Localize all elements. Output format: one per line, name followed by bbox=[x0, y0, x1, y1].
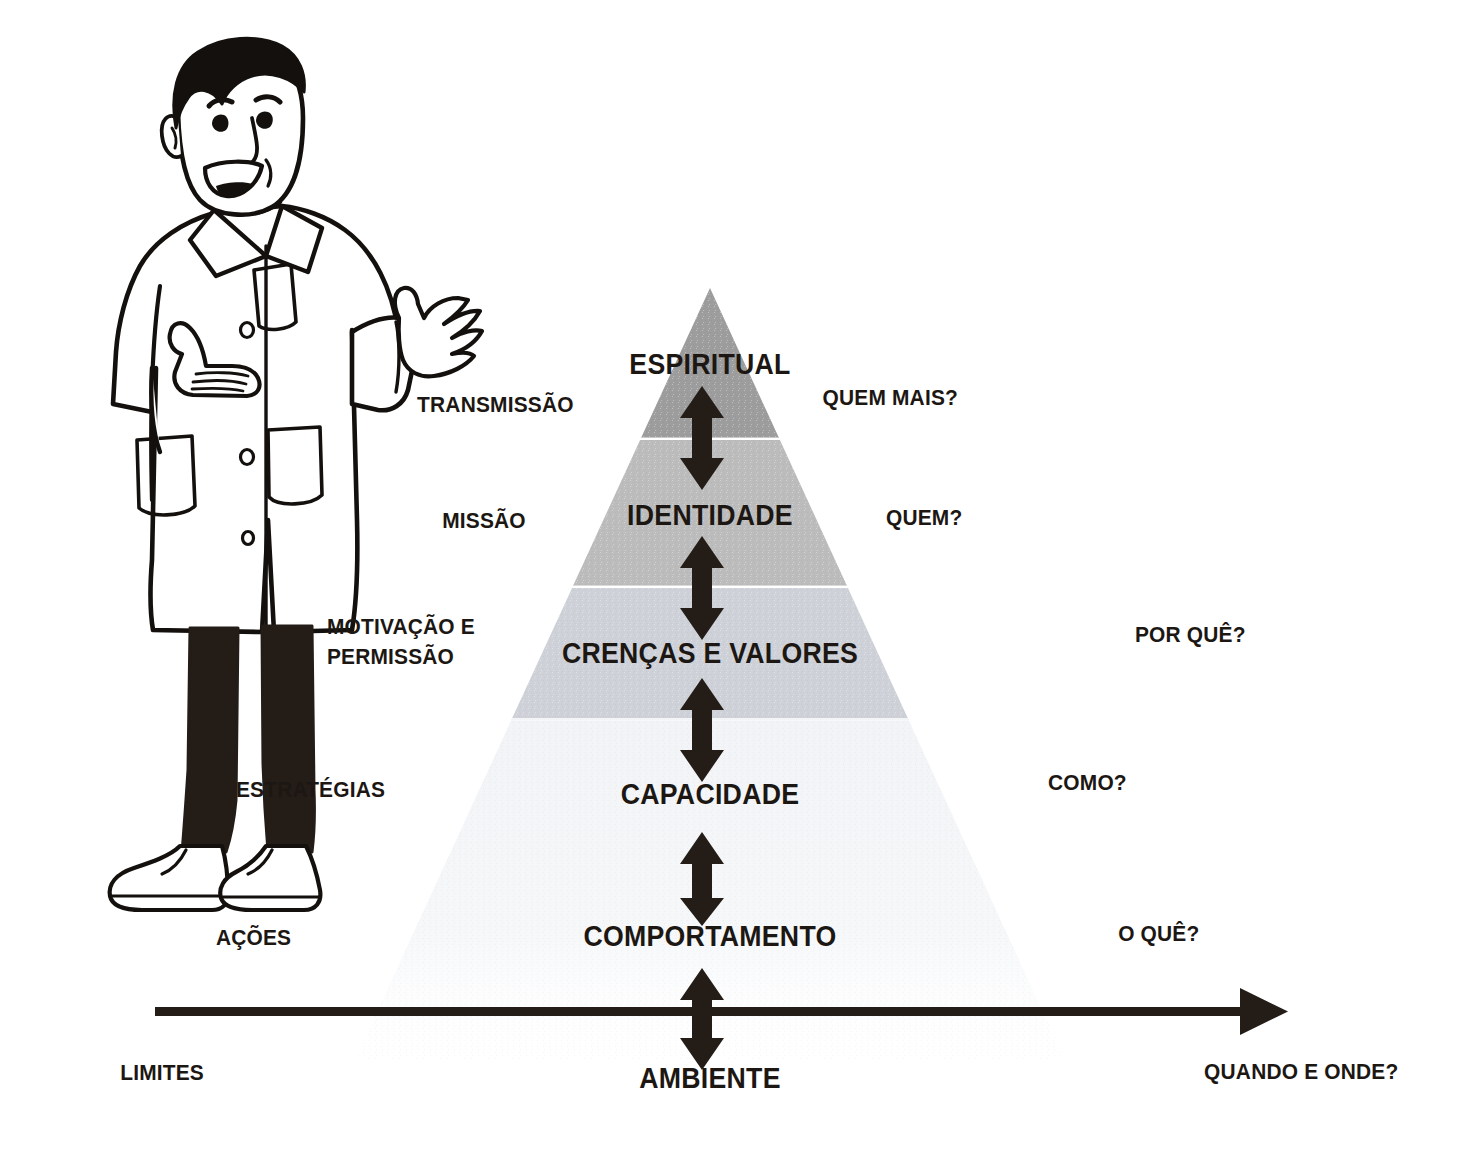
tier-label-espiritual: ESPIRITUAL bbox=[629, 348, 790, 381]
coat-button-mid bbox=[241, 450, 254, 465]
left-label-limites: LIMITES bbox=[120, 1060, 204, 1086]
leg-right bbox=[262, 626, 314, 852]
presenter-cartoon bbox=[0, 0, 1469, 1175]
coat-button-low bbox=[243, 532, 254, 545]
right-label-quando-e-onde: QUANDO E ONDE? bbox=[1204, 1059, 1398, 1085]
tier-label-crencas-e-valores: CRENÇAS E VALORES bbox=[562, 637, 858, 670]
diagram-canvas: ESPIRITUAL IDENTIDADE CRENÇAS E VALORES … bbox=[0, 0, 1469, 1175]
left-label-estrategias: ESTRATÉGIAS bbox=[236, 777, 385, 803]
right-label-quem-mais: QUEM MAIS? bbox=[823, 385, 958, 411]
right-label-quem: QUEM? bbox=[886, 505, 962, 531]
right-label-como: COMO? bbox=[1048, 770, 1127, 796]
leg-left bbox=[182, 628, 238, 852]
left-label-motivacao-e-permissao: MOTIVAÇÃO E PERMISSÃO bbox=[327, 612, 475, 671]
coat-button-top bbox=[241, 323, 254, 338]
tier-label-capacidade: CAPACIDADE bbox=[621, 778, 800, 811]
tier-label-ambiente: AMBIENTE bbox=[639, 1062, 781, 1095]
left-label-acoes: AÇÕES bbox=[216, 925, 291, 951]
hand-right bbox=[395, 288, 482, 376]
tier-label-comportamento: COMPORTAMENTO bbox=[583, 920, 836, 953]
shoe-left bbox=[110, 846, 228, 910]
left-label-transmissao: TRANSMISSÃO bbox=[417, 392, 574, 418]
tier-label-identidade: IDENTIDADE bbox=[627, 499, 793, 532]
left-label-missao: MISSÃO bbox=[442, 508, 526, 534]
right-label-por-que: POR QUÊ? bbox=[1135, 622, 1246, 648]
right-label-o-que: O QUÊ? bbox=[1118, 921, 1199, 947]
